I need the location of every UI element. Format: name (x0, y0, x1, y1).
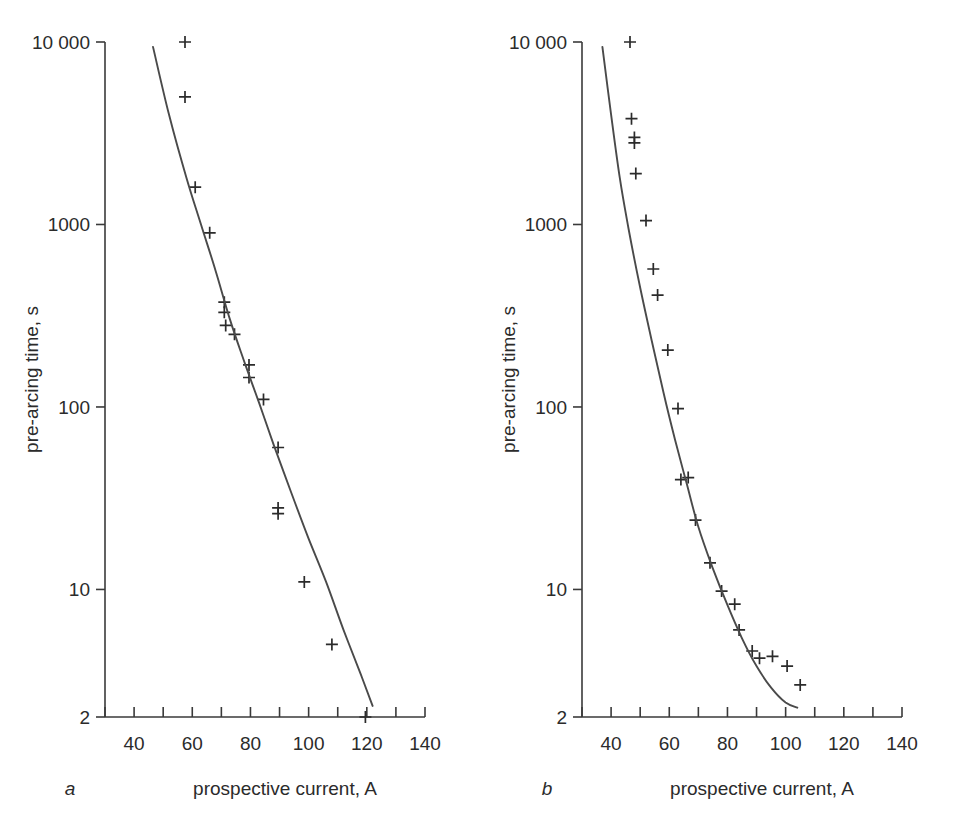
data-point-marker (647, 263, 659, 275)
x-axis-title: prospective current, A (193, 778, 377, 799)
data-point-marker (767, 650, 779, 662)
data-point-marker (794, 679, 806, 691)
y-tick-label: 1000 (525, 214, 567, 235)
data-point-marker (626, 113, 638, 125)
y-tick-label: 10 (69, 579, 90, 600)
x-tick-label: 60 (182, 733, 203, 754)
y-tick-label: 2 (556, 707, 567, 728)
x-tick-label: 40 (601, 733, 622, 754)
panel-letter: a (65, 778, 76, 799)
data-point-marker (662, 344, 674, 356)
data-point-marker (624, 36, 636, 48)
data-point-group (624, 36, 806, 691)
data-point-marker (652, 289, 664, 301)
x-axis-title: prospective current, A (670, 778, 854, 799)
data-point-marker (630, 168, 642, 180)
data-point-marker (272, 508, 284, 520)
x-tick-label: 100 (770, 733, 802, 754)
panel-letter: b (542, 778, 553, 799)
data-point-marker (179, 36, 191, 48)
data-point-marker (781, 660, 793, 672)
chart-panel-b: 10 0001000100102406080100120140prospecti… (477, 0, 953, 825)
panel-a-canvas: 10 0001000100102406080100120140prospecti… (0, 0, 476, 825)
x-tick-label: 80 (717, 733, 738, 754)
data-point-marker (179, 91, 191, 103)
y-tick-label: 2 (79, 707, 90, 728)
y-tick-label: 10 000 (509, 32, 567, 53)
x-tick-label: 140 (886, 733, 918, 754)
x-tick-label: 120 (351, 733, 383, 754)
y-axis-title: pre-arcing time, s (498, 306, 519, 453)
data-point-group (179, 36, 371, 723)
data-point-marker (729, 598, 741, 610)
x-tick-label: 100 (293, 733, 325, 754)
panel-b-canvas: 10 0001000100102406080100120140prospecti… (477, 0, 953, 825)
chart-panel-a: 10 0001000100102406080100120140prospecti… (0, 0, 476, 825)
figure-root: 10 0001000100102406080100120140prospecti… (0, 0, 953, 825)
y-tick-label: 100 (535, 397, 567, 418)
x-tick-label: 80 (240, 733, 261, 754)
data-point-marker (628, 137, 640, 149)
x-tick-label: 120 (828, 733, 860, 754)
data-point-marker (640, 215, 652, 227)
y-tick-label: 1000 (48, 214, 90, 235)
data-point-marker (672, 403, 684, 415)
x-tick-label: 60 (659, 733, 680, 754)
y-tick-label: 100 (58, 397, 90, 418)
data-point-marker (326, 638, 338, 650)
x-tick-label: 40 (124, 733, 145, 754)
y-tick-label: 10 (546, 579, 567, 600)
data-point-marker (298, 576, 310, 588)
y-axis-title: pre-arcing time, s (21, 306, 42, 453)
fit-curve (602, 47, 797, 708)
fit-curve (153, 47, 373, 706)
y-tick-label: 10 000 (32, 32, 90, 53)
data-point-marker (359, 711, 371, 723)
x-tick-label: 140 (409, 733, 441, 754)
